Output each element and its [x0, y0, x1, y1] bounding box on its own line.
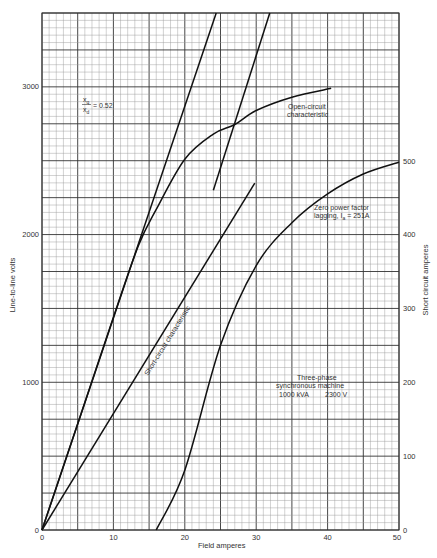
svg-text:xd: xd — [83, 106, 90, 115]
x-tick: 0 — [40, 533, 44, 542]
chart: 0 10 20 30 40 50 Field amperes 0 1000 20… — [0, 0, 437, 558]
y-axis-ticks: 0 1000 2000 3000 — [22, 82, 39, 535]
y2-tick: 200 — [403, 378, 416, 387]
x-axis-title: Field amperes — [198, 541, 246, 550]
y2-tick: 500 — [403, 157, 416, 166]
grid — [42, 13, 399, 530]
y-tick: 0 — [35, 526, 39, 535]
svg-text:xq: xq — [83, 96, 90, 105]
ratio-value: = 0.52 — [93, 102, 113, 109]
y2-tick: 300 — [403, 304, 416, 313]
ratio-annotation: xq xd = 0.52 — [82, 96, 113, 115]
y-tick: 2000 — [22, 230, 39, 239]
y-tick: 1000 — [22, 378, 39, 387]
x-tick: 10 — [109, 533, 117, 542]
svg-text:Open-circuit: Open-circuit — [288, 103, 326, 111]
svg-text:Three-phase: Three-phase — [297, 374, 337, 382]
x-tick: 50 — [393, 533, 401, 542]
y2-tick: 400 — [403, 230, 416, 239]
y2-tick: 100 — [403, 452, 416, 461]
y2-axis-title: Short circuit amperes — [421, 244, 430, 315]
svg-text:2300 V: 2300 V — [325, 391, 348, 398]
y2-axis-ticks: 0 100 200 300 400 500 — [403, 157, 416, 535]
y2-tick: 0 — [403, 526, 407, 535]
svg-text:characteristic: characteristic — [287, 111, 329, 118]
short-circuit-line — [42, 183, 255, 530]
x-tick: 30 — [252, 533, 260, 542]
zpf-label: Zero power factor lagging, Ia = 251A — [314, 204, 370, 221]
svg-text:1000 kVA: 1000 kVA — [279, 391, 309, 398]
svg-text:synchronous machine: synchronous machine — [276, 382, 344, 390]
y-axis-title: Line-to-line volts — [8, 257, 17, 312]
svg-text:lagging, Ia = 251A: lagging, Ia = 251A — [314, 212, 370, 221]
svg-text:Zero power factor: Zero power factor — [314, 204, 370, 212]
x-tick: 40 — [323, 533, 331, 542]
occ-label: Open-circuit characteristic — [287, 103, 329, 118]
y-tick: 3000 — [22, 82, 39, 91]
machine-label: Three-phase synchronous machine 1000 kVA… — [276, 374, 348, 398]
x-tick: 20 — [181, 533, 189, 542]
